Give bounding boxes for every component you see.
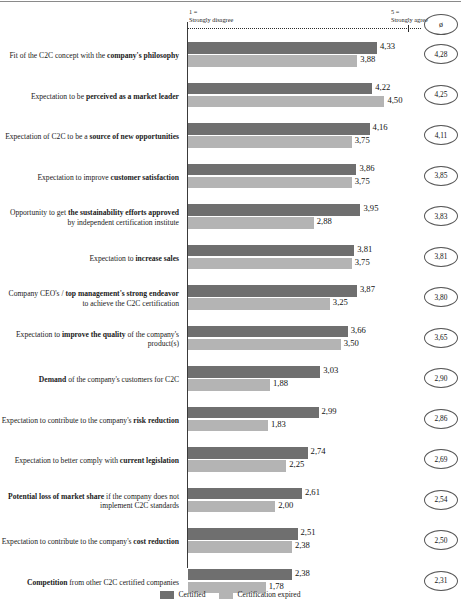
chart-row: Fit of the C2C concept with the company'… — [0, 36, 461, 77]
bar-certified — [188, 528, 298, 540]
bar-certified — [188, 123, 370, 135]
chart-row: Opportunity to get the sustainability ef… — [0, 198, 461, 239]
scale-right-line2: Strongly agree — [391, 16, 428, 24]
row-average: 3,85 — [424, 166, 458, 186]
bar-value-label: 2,61 — [305, 487, 320, 499]
row-bars: 4,163,75 — [188, 122, 461, 152]
bar-value-label: 2,51 — [301, 527, 316, 539]
bar-certified — [188, 488, 302, 500]
bar-certified — [188, 407, 319, 419]
row-label: Expectation to contribute to the company… — [1, 416, 179, 426]
bar-expired — [188, 258, 352, 270]
row-label: Expectation to be perceived as a market … — [1, 92, 179, 102]
bar-certified — [188, 366, 320, 378]
bar-value-label: 3,50 — [344, 338, 359, 350]
scale-right-line1: 5 = — [391, 8, 428, 16]
chart-row: Company CEO's / top management's strong … — [0, 279, 461, 320]
bar-value-label: 2,38 — [295, 568, 310, 580]
bar-certified — [188, 245, 354, 257]
row-average: 3,80 — [424, 287, 458, 307]
row-label: Expectation of C2C to be a source of new… — [1, 132, 179, 142]
row-average: 2,90 — [424, 368, 458, 388]
row-bars: 4,333,88 — [188, 41, 461, 71]
chart-row: Expectation to improve the quality of th… — [0, 320, 461, 361]
top-divider — [0, 1, 461, 2]
chart-rows: Fit of the C2C concept with the company'… — [0, 36, 461, 603]
bar-certified — [188, 83, 372, 95]
bar-value-label: 2,74 — [311, 446, 326, 458]
bar-value-label: 2,00 — [278, 500, 293, 512]
row-average: 3,81 — [424, 247, 458, 267]
legend-label: Certified — [178, 590, 205, 599]
bar-expired — [188, 541, 292, 553]
bar-expired — [188, 339, 341, 351]
bar-value-label: 3,03 — [323, 365, 338, 377]
bar-value-label: 2,99 — [322, 406, 337, 418]
legend-swatch — [160, 591, 174, 599]
bar-value-label: 3,75 — [355, 257, 370, 269]
scale-dotted-line — [187, 28, 421, 30]
survey-bar-chart: 1 = Strongly disagree 5 = Strongly agree… — [0, 0, 461, 607]
bar-value-label: 2,38 — [295, 540, 310, 552]
bar-value-label: 3,75 — [355, 135, 370, 147]
row-bars: 2,512,38 — [188, 527, 461, 557]
row-bars: 2,991,83 — [188, 406, 461, 436]
bar-certified — [188, 42, 377, 54]
row-average: 2,50 — [424, 530, 458, 550]
chart-legend: CertifiedCertification expired — [0, 590, 461, 599]
row-average: 3,65 — [424, 328, 458, 348]
chart-row: Expectation to better comply with curren… — [0, 441, 461, 482]
bar-value-label: 3,95 — [363, 203, 378, 215]
row-label: Expectation to increase sales — [1, 254, 179, 264]
bar-certified — [188, 326, 348, 338]
bar-value-label: 3,86 — [359, 163, 374, 175]
bar-expired — [188, 298, 330, 310]
bar-value-label: 1,88 — [273, 378, 288, 390]
chart-row: Potential loss of market share if the co… — [0, 482, 461, 523]
row-label: Fit of the C2C concept with the company'… — [1, 51, 179, 61]
bar-expired — [188, 96, 384, 108]
bar-value-label: 3,75 — [355, 176, 370, 188]
row-bars: 3,952,88 — [188, 203, 461, 233]
scale-left-line1: 1 = — [189, 8, 233, 16]
row-bars: 3,031,88 — [188, 365, 461, 395]
bar-value-label: 3,88 — [360, 54, 375, 66]
bar-expired — [188, 55, 357, 67]
bar-value-label: 2,25 — [289, 459, 304, 471]
row-bars: 3,663,50 — [188, 325, 461, 355]
bar-value-label: 1,83 — [271, 419, 286, 431]
row-label: Expectation to better comply with curren… — [1, 456, 179, 466]
bar-expired — [188, 379, 270, 391]
row-average: 2,31 — [424, 571, 458, 591]
row-bars: 2,612,00 — [188, 487, 461, 517]
bar-value-label: 3,81 — [357, 244, 372, 256]
row-label: Company CEO's / top management's strong … — [1, 290, 179, 309]
bar-expired — [188, 177, 352, 189]
chart-row: Expectation to increase sales3,813,753,8… — [0, 239, 461, 280]
average-column-header: ø — [424, 14, 458, 35]
scale-left-line2: Strongly disagree — [189, 16, 233, 24]
bar-certified — [188, 569, 292, 581]
row-bars: 2,742,25 — [188, 446, 461, 476]
row-label: Expectation to contribute to the company… — [1, 537, 179, 547]
chart-row: Demand of the company's customers for C2… — [0, 360, 461, 401]
bar-value-label: 3,66 — [351, 325, 366, 337]
bar-certified — [188, 204, 360, 216]
axis-tick-max — [408, 25, 409, 32]
row-label: Potential loss of market share if the co… — [1, 492, 179, 511]
chart-row: Expectation to improve customer satisfac… — [0, 158, 461, 199]
row-label: Competition from other C2C certified com… — [1, 578, 179, 588]
row-bars: 4,224,50 — [188, 82, 461, 112]
row-average: 2,54 — [424, 490, 458, 510]
row-label: Expectation to improve customer satisfac… — [1, 173, 179, 183]
bar-value-label: 3,25 — [333, 297, 348, 309]
legend-swatch — [219, 591, 233, 599]
row-average: 4,25 — [424, 85, 458, 105]
bar-value-label: 3,87 — [360, 284, 375, 296]
row-average: 3,83 — [424, 206, 458, 226]
scale-caption-right: 5 = Strongly agree — [391, 8, 428, 23]
legend-item: Certification expired — [219, 590, 300, 599]
row-label: Demand of the company's customers for C2… — [1, 375, 179, 385]
bar-expired — [188, 501, 275, 513]
row-average: 4,11 — [424, 125, 458, 145]
